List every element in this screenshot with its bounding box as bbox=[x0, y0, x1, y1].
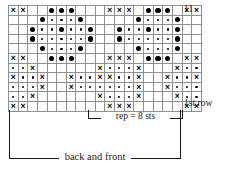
cross-icon: × bbox=[105, 73, 114, 81]
cell-cross-symbol: × bbox=[18, 53, 28, 63]
small-dot-icon bbox=[176, 86, 178, 88]
cross-icon: × bbox=[96, 64, 105, 72]
small-dot-icon bbox=[118, 67, 120, 69]
cell-small-dot-symbol bbox=[143, 44, 153, 54]
small-dot-icon bbox=[157, 38, 159, 40]
cell-empty bbox=[95, 34, 105, 44]
large-dot-icon bbox=[30, 27, 35, 32]
large-dot-icon bbox=[136, 17, 141, 22]
cell-small-dot-symbol bbox=[115, 82, 125, 92]
cell-small-dot-symbol bbox=[124, 82, 134, 92]
small-dot-icon bbox=[118, 76, 120, 78]
row-label-top: 11 bbox=[184, 4, 193, 14]
cell-large-dot-symbol bbox=[47, 6, 57, 16]
small-dot-icon bbox=[147, 48, 149, 50]
cell-empty bbox=[95, 44, 105, 54]
cross-icon: × bbox=[163, 83, 172, 91]
small-dot-icon bbox=[70, 38, 72, 40]
small-dot-icon bbox=[32, 76, 34, 78]
small-dot-icon bbox=[70, 48, 72, 50]
small-dot-icon bbox=[138, 28, 140, 30]
small-dot-icon bbox=[41, 28, 43, 30]
cross-icon: × bbox=[115, 6, 124, 14]
cross-icon: × bbox=[9, 6, 18, 14]
cell-empty bbox=[182, 34, 192, 44]
cell-cross-symbol: × bbox=[163, 73, 173, 83]
stitch-grid-row: ×××× bbox=[9, 63, 202, 73]
cell-empty bbox=[105, 34, 115, 44]
small-dot-icon bbox=[80, 76, 82, 78]
cell-cross-symbol: × bbox=[163, 82, 173, 92]
cell-empty bbox=[47, 82, 57, 92]
large-dot-icon bbox=[146, 27, 151, 32]
cell-empty bbox=[95, 53, 105, 63]
small-dot-icon bbox=[186, 67, 188, 69]
small-dot-icon bbox=[138, 38, 140, 40]
large-dot-icon bbox=[146, 56, 151, 61]
cell-small-dot-symbol bbox=[66, 44, 76, 54]
stitch-grid: ××××××××××××××××××××××××××××××××××××××××… bbox=[8, 5, 202, 112]
cell-large-dot-symbol bbox=[37, 44, 47, 54]
small-dot-icon bbox=[167, 19, 169, 21]
cell-large-dot-symbol bbox=[172, 44, 182, 54]
cell-cross-symbol: × bbox=[9, 73, 19, 83]
cell-empty bbox=[105, 25, 115, 35]
cell-cross-symbol: × bbox=[28, 92, 38, 102]
cell-empty bbox=[86, 63, 96, 73]
cell-empty bbox=[172, 53, 182, 63]
small-dot-icon bbox=[167, 28, 169, 30]
cell-small-dot-symbol bbox=[153, 44, 163, 54]
cell-empty bbox=[192, 25, 202, 35]
cell-large-dot-symbol bbox=[76, 44, 86, 54]
cell-empty bbox=[105, 44, 115, 54]
cell-small-dot-symbol bbox=[76, 34, 86, 44]
cell-empty bbox=[28, 15, 38, 25]
large-dot-icon bbox=[49, 56, 54, 61]
cell-empty bbox=[37, 53, 47, 63]
cell-cross-symbol: × bbox=[192, 53, 202, 63]
cell-empty bbox=[57, 63, 67, 73]
knitting-chart-figure: ××××××××××××××××××××××××××××××××××××××××… bbox=[0, 0, 229, 177]
cross-icon: × bbox=[67, 83, 76, 91]
cell-small-dot-symbol bbox=[172, 73, 182, 83]
cell-empty bbox=[47, 92, 57, 102]
small-dot-icon bbox=[22, 86, 24, 88]
small-dot-icon bbox=[147, 38, 149, 40]
cross-icon: × bbox=[105, 6, 114, 14]
cell-large-dot-symbol bbox=[57, 25, 67, 35]
cell-empty bbox=[18, 44, 28, 54]
small-dot-icon bbox=[195, 67, 197, 69]
cell-empty bbox=[153, 92, 163, 102]
small-dot-icon bbox=[80, 86, 82, 88]
cell-cross-symbol: × bbox=[134, 82, 144, 92]
cell-large-dot-symbol bbox=[143, 25, 153, 35]
small-dot-icon bbox=[167, 38, 169, 40]
cell-small-dot-symbol bbox=[76, 82, 86, 92]
large-dot-icon bbox=[78, 46, 83, 51]
small-dot-icon bbox=[51, 28, 53, 30]
cell-small-dot-symbol bbox=[76, 25, 86, 35]
cell-small-dot-symbol bbox=[18, 63, 28, 73]
cross-icon: × bbox=[38, 83, 47, 91]
small-dot-icon bbox=[41, 38, 43, 40]
cell-small-dot-symbol bbox=[143, 15, 153, 25]
cell-cross-symbol: × bbox=[134, 73, 144, 83]
cell-small-dot-symbol bbox=[47, 25, 57, 35]
cell-cross-symbol: × bbox=[172, 63, 182, 73]
cell-large-dot-symbol bbox=[153, 6, 163, 16]
cross-icon: × bbox=[19, 54, 28, 62]
cross-icon: × bbox=[134, 64, 143, 72]
small-dot-icon bbox=[109, 96, 111, 98]
cell-empty bbox=[37, 6, 47, 16]
cell-empty bbox=[57, 73, 67, 83]
cell-empty bbox=[192, 15, 202, 25]
cell-small-dot-symbol bbox=[182, 63, 192, 73]
small-dot-icon bbox=[128, 76, 130, 78]
cell-cross-symbol: × bbox=[182, 53, 192, 63]
large-dot-icon bbox=[59, 56, 64, 61]
cell-small-dot-symbol bbox=[124, 73, 134, 83]
cell-empty bbox=[153, 63, 163, 73]
cell-empty bbox=[153, 82, 163, 92]
small-dot-icon bbox=[157, 48, 159, 50]
cell-empty bbox=[192, 34, 202, 44]
